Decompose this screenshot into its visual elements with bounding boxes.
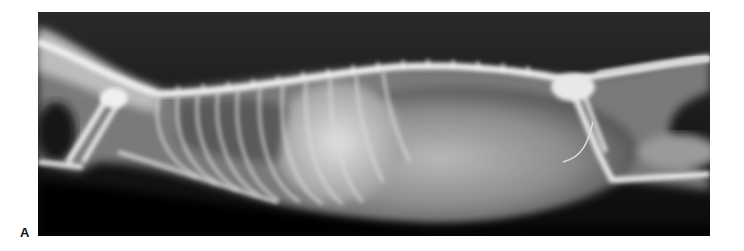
cardiac-silhouette [273,82,403,202]
radiograph-image [38,12,710,236]
panel-label: A [20,225,29,240]
radiograph-drawing [38,12,710,236]
